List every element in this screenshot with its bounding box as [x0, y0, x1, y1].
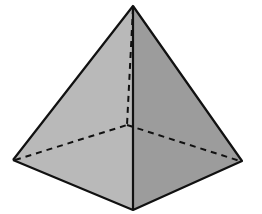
right-face: [133, 6, 242, 210]
pyramid-diagram: [0, 0, 262, 214]
left-face: [13, 6, 133, 210]
